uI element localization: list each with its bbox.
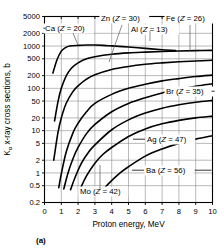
x-tick-label: 4 [110, 207, 114, 216]
x-tick-label: 5 [126, 207, 130, 216]
x-tick-labels: 012345678910 [42, 207, 216, 216]
y-tick-label: 200 [27, 71, 40, 80]
x-tick-label: 7 [160, 207, 164, 216]
y-tick-label: 0.5 [29, 181, 40, 190]
y-tick-label: 50 [32, 97, 40, 106]
annotation-ca: Ca (Z = 20) [45, 24, 85, 33]
y-tick-label: 100 [27, 84, 40, 93]
x-tick-label: 8 [177, 207, 181, 216]
annotation-ag: Ag (Z = 47) [147, 135, 187, 144]
figure-caption: (a) [36, 236, 46, 245]
y-tick-label: 2 [36, 156, 40, 165]
annotation-fe: Fe (Z = 26) [166, 14, 205, 23]
x-tick-label: 2 [76, 207, 80, 216]
annotation-ba: Ba (Z = 56) [146, 166, 186, 175]
y-tick-label: 10 [32, 126, 40, 135]
x-tick-label: 9 [194, 207, 198, 216]
y-tick-label: 20 [32, 114, 40, 123]
y-axis-label: Kα x-ray cross sections, b [3, 63, 13, 156]
xray-cross-section-chart: 0123456789100.20.51251020501002005001000… [0, 0, 224, 252]
annotation-al: Al (Z = 13) [131, 25, 168, 34]
x-tick-label: 3 [93, 207, 97, 216]
annotation-zn: Zn (Z = 30) [101, 14, 140, 23]
y-tick-label: 1000 [23, 42, 40, 51]
y-tick-label: 0.2 [29, 198, 40, 207]
y-tick-label: 5 [36, 139, 40, 148]
x-tick-label: 1 [59, 207, 63, 216]
annotation-mo: Mo (Z = 42) [80, 187, 121, 196]
x-tick-label: 10 [208, 207, 216, 216]
y-tick-labels: 0.20.5125102050100200500100020005000 [23, 12, 40, 207]
figure-container: 0123456789100.20.51251020501002005001000… [0, 0, 224, 252]
x-tick-label: 6 [143, 207, 147, 216]
annotation-br: Br (Z = 35) [166, 87, 204, 96]
y-tick-label: 2000 [23, 29, 40, 38]
x-axis-label: Proton energy, MeV [92, 220, 165, 229]
x-tick-label: 0 [42, 207, 46, 216]
y-tick-label: 500 [27, 54, 40, 63]
y-tick-label: 1 [36, 169, 40, 178]
y-tick-label: 5000 [23, 12, 40, 21]
